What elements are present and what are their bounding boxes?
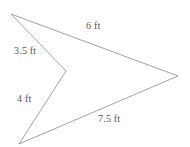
side-label-top: 6 ft [86, 20, 100, 31]
side-label-upper-left: 3.5 ft [14, 45, 36, 56]
side-label-lower-left: 4 ft [17, 93, 31, 104]
side-label-bottom: 7.5 ft [98, 113, 120, 124]
concave-polygon-outline [11, 14, 178, 144]
geometry-figure: 6 ft 3.5 ft 4 ft 7.5 ft [0, 0, 190, 147]
